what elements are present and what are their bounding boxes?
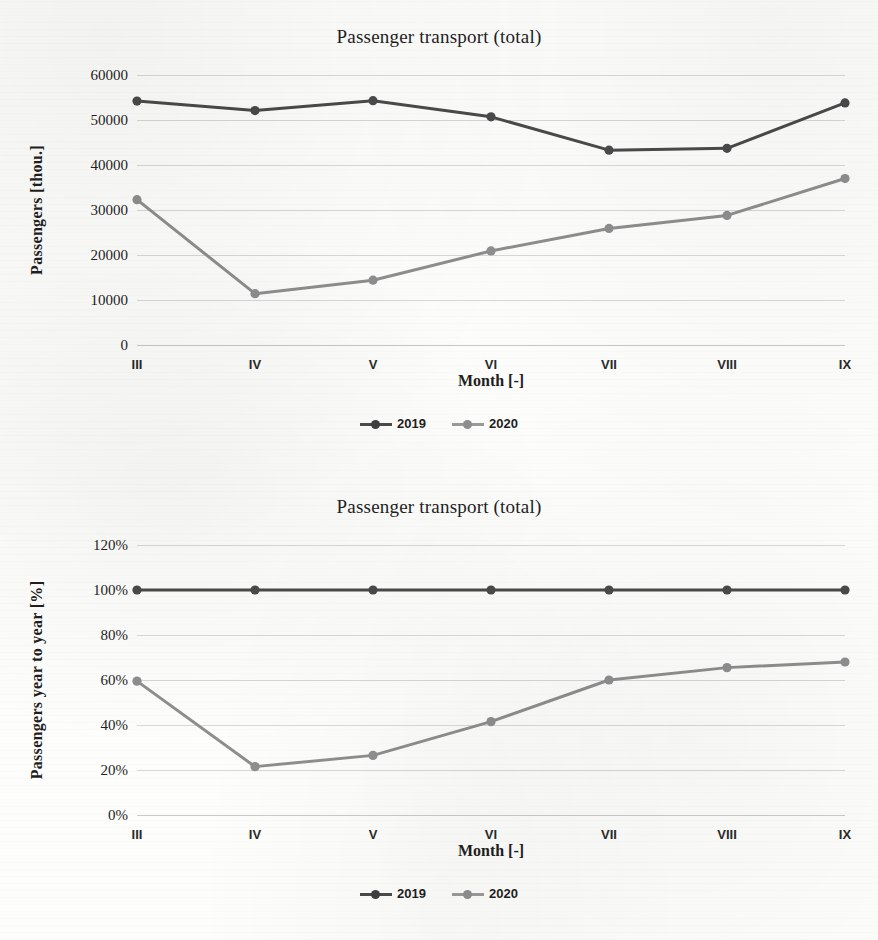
y-axis-label-text: Passengers [thou.] <box>28 145 46 275</box>
y-axis-tick-label: 120% <box>93 537 128 554</box>
data-point-marker[interactable] <box>250 106 259 115</box>
x-axis-tick-label: VI <box>485 357 497 372</box>
data-point-marker[interactable] <box>368 585 377 594</box>
legend-label: 2020 <box>489 886 518 901</box>
y-axis-tick-label: 0% <box>108 807 128 824</box>
legend-line-marker-icon <box>452 888 484 900</box>
chart-title: Passenger transport (total) <box>0 496 878 518</box>
gridline <box>137 815 845 816</box>
y-axis-tick-label: 20% <box>101 762 129 779</box>
data-point-marker[interactable] <box>132 677 141 686</box>
plot-area: 0100002000030000400005000060000IIIIVVVIV… <box>137 75 845 345</box>
data-point-marker[interactable] <box>604 675 613 684</box>
x-axis-label: Month [-] <box>137 842 845 860</box>
legend-label: 2020 <box>489 416 518 431</box>
series-layer <box>137 75 845 345</box>
legend-label: 2019 <box>397 886 426 901</box>
y-axis-tick-label: 60% <box>101 672 129 689</box>
x-axis-tick-label: VIII <box>717 827 737 842</box>
data-point-marker[interactable] <box>722 144 731 153</box>
data-point-marker[interactable] <box>132 195 141 204</box>
x-axis-tick-label: IV <box>249 827 261 842</box>
x-axis-tick-label: VI <box>485 827 497 842</box>
y-axis-tick-label: 40000 <box>91 157 129 174</box>
data-point-marker[interactable] <box>250 289 259 298</box>
y-axis-label: Passengers year to year [%] <box>26 545 48 815</box>
data-point-marker[interactable] <box>604 585 613 594</box>
x-axis-tick-label: IV <box>249 357 261 372</box>
legend-item-2019[interactable]: 2019 <box>360 886 426 901</box>
series-line-2019 <box>137 101 845 150</box>
y-axis-tick-label: 60000 <box>91 67 129 84</box>
x-axis-tick-label: III <box>132 357 143 372</box>
data-point-marker[interactable] <box>132 97 141 106</box>
data-point-marker[interactable] <box>840 174 849 183</box>
figure-passenger-transport-yoy: Passenger transport (total) Passengers y… <box>0 470 878 940</box>
figure-passenger-transport-absolute: Passenger transport (total) Passengers [… <box>0 0 878 470</box>
legend-item-2020[interactable]: 2020 <box>452 416 518 431</box>
data-point-marker[interactable] <box>604 224 613 233</box>
data-point-marker[interactable] <box>250 762 259 771</box>
y-axis-label-text: Passengers year to year [%] <box>28 581 46 780</box>
data-point-marker[interactable] <box>486 246 495 255</box>
data-point-marker[interactable] <box>368 96 377 105</box>
x-axis-tick-label: III <box>132 827 143 842</box>
chart-legend: 2019 2020 <box>0 416 878 431</box>
y-axis-tick-label: 80% <box>101 627 129 644</box>
data-point-marker[interactable] <box>486 717 495 726</box>
data-point-marker[interactable] <box>722 663 731 672</box>
legend-item-2020[interactable]: 2020 <box>452 886 518 901</box>
x-axis-tick-label: VII <box>601 357 617 372</box>
y-axis-tick-label: 50000 <box>91 112 129 129</box>
y-axis-tick-label: 100% <box>93 582 128 599</box>
data-point-marker[interactable] <box>840 657 849 666</box>
data-point-marker[interactable] <box>722 211 731 220</box>
x-axis-tick-label: VII <box>601 827 617 842</box>
legend-line-marker-icon <box>452 418 484 430</box>
series-layer <box>137 545 845 815</box>
plot-area: 0%20%40%60%80%100%120%IIIIVVVIVIIVIIIIX <box>137 545 845 815</box>
data-point-marker[interactable] <box>722 585 731 594</box>
legend-line-marker-icon <box>360 418 392 430</box>
x-axis-label: Month [-] <box>137 372 845 390</box>
data-point-marker[interactable] <box>840 585 849 594</box>
x-axis-tick-label: V <box>369 357 378 372</box>
x-axis-tick-label: VIII <box>717 357 737 372</box>
data-point-marker[interactable] <box>132 585 141 594</box>
x-axis-tick-label: IX <box>839 827 851 842</box>
data-point-marker[interactable] <box>368 276 377 285</box>
data-point-marker[interactable] <box>250 585 259 594</box>
chart-title: Passenger transport (total) <box>0 26 878 48</box>
legend-label: 2019 <box>397 416 426 431</box>
data-point-marker[interactable] <box>604 146 613 155</box>
chart-legend: 2019 2020 <box>0 886 878 901</box>
data-point-marker[interactable] <box>486 112 495 121</box>
x-axis-tick-label: V <box>369 827 378 842</box>
data-point-marker[interactable] <box>368 751 377 760</box>
y-axis-tick-label: 20000 <box>91 247 129 264</box>
y-axis-label: Passengers [thou.] <box>26 75 48 345</box>
x-axis-tick-label: IX <box>839 357 851 372</box>
series-line-2020 <box>137 179 845 294</box>
y-axis-tick-label: 30000 <box>91 202 129 219</box>
data-point-marker[interactable] <box>840 98 849 107</box>
y-axis-tick-label: 40% <box>101 717 129 734</box>
gridline <box>137 345 845 346</box>
series-line-2020 <box>137 662 845 767</box>
y-axis-tick-label: 10000 <box>91 292 129 309</box>
legend-item-2019[interactable]: 2019 <box>360 416 426 431</box>
data-point-marker[interactable] <box>486 585 495 594</box>
legend-line-marker-icon <box>360 888 392 900</box>
y-axis-tick-label: 0 <box>121 337 129 354</box>
